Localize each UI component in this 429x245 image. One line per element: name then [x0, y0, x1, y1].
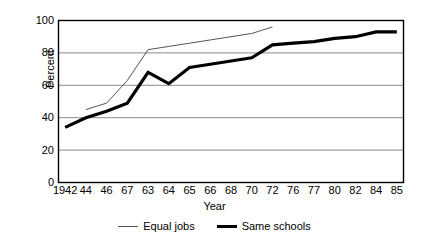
x-tick-label: 46 [100, 184, 112, 196]
x-tick-label: 66 [204, 184, 216, 196]
x-tick-label: 44 [80, 184, 92, 196]
data-series-layer [65, 27, 397, 127]
x-tick-label: 70 [246, 184, 258, 196]
x-tick-label: 1942 [53, 184, 77, 196]
x-tick-label: 64 [163, 184, 175, 196]
series-line-same-schools [65, 32, 397, 128]
x-tick-label: 72 [266, 184, 278, 196]
legend-item-same-schools: Same schools [217, 220, 311, 232]
x-tick-label: 82 [349, 184, 361, 196]
legend-label: Same schools [242, 220, 311, 232]
series-line-equal-jobs [86, 27, 273, 110]
x-tick-label: 85 [391, 184, 403, 196]
x-axis-title: Year [0, 199, 429, 213]
x-tick-label: 63 [142, 184, 154, 196]
gridlines [59, 21, 404, 151]
legend-swatch-thin-line-icon [118, 226, 138, 227]
chart-legend: Equal jobs Same schools [0, 218, 429, 234]
x-tick-label: 77 [308, 184, 320, 196]
x-axis-tick-labels: 194244466763646566687072767780828485 [0, 184, 429, 198]
line-chart: Percent 100 80 60 40 20 0 19424446676364… [0, 0, 429, 245]
x-tick-label: 67 [121, 184, 133, 196]
x-tick-label: 65 [183, 184, 195, 196]
x-tick-label: 68 [225, 184, 237, 196]
x-tick-label: 84 [370, 184, 382, 196]
x-tick-label: 80 [329, 184, 341, 196]
x-tick-label: 76 [287, 184, 299, 196]
plot-frame [59, 21, 404, 183]
legend-label: Equal jobs [143, 220, 194, 232]
legend-item-equal-jobs: Equal jobs [118, 220, 194, 232]
legend-swatch-thick-line-icon [217, 225, 237, 228]
